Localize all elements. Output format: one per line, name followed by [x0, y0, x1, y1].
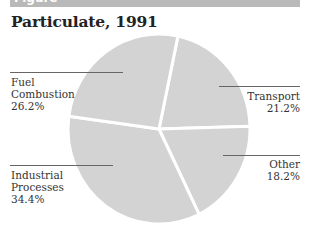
- pie-slice-fuel-combustion: [69, 34, 178, 129]
- label-text: Combustion: [11, 88, 75, 100]
- label-text: Processes: [11, 181, 64, 193]
- label-percent: 18.2%: [267, 170, 300, 182]
- label-industrial-processes: Industrial Processes 34.4%: [11, 169, 64, 205]
- label-fuel-combustion: Fuel Combustion 26.2%: [11, 76, 75, 112]
- label-other: Other 18.2%: [267, 158, 300, 182]
- label-percent: 21.2%: [247, 102, 300, 114]
- label-percent: 34.4%: [11, 193, 64, 205]
- label-text: Transport: [247, 90, 300, 102]
- label-text: Fuel: [11, 76, 75, 88]
- label-transport: Transport 21.2%: [247, 90, 300, 114]
- label-percent: 26.2%: [11, 100, 75, 112]
- pie-slices: [68, 34, 250, 224]
- label-text: Other: [267, 158, 300, 170]
- label-text: Industrial: [11, 169, 64, 181]
